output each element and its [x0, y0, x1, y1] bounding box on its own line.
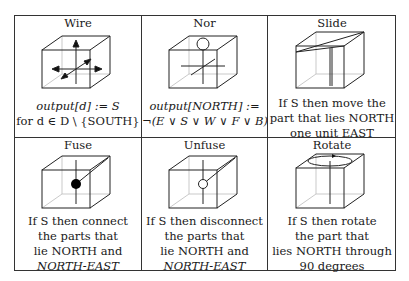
- cell-title: Nor: [142, 16, 267, 30]
- cell-wire: Wire output[d] := S for d ∈ D \ {SOUTH}: [15, 16, 141, 137]
- cube-with-filled-joint-icon: [38, 152, 118, 214]
- cube-with-slide-plane-icon: [292, 28, 372, 94]
- caption-line: ¬(E ∨ S ∨ W ∨ F ∨ B): [142, 114, 267, 129]
- caption-line: the part that: [268, 229, 396, 244]
- caption-line: lie NORTH and: [142, 244, 267, 259]
- caption-line: the parts that: [142, 229, 267, 244]
- cell-title: Wire: [15, 16, 141, 30]
- caption-line: part that lies NORTH: [268, 111, 396, 126]
- cube-with-four-arrows-icon: [38, 32, 118, 94]
- cell-slide: Slide If S then move the part that lies …: [268, 16, 396, 137]
- caption-line: for d ∈ D \ {SOUTH}: [15, 114, 141, 129]
- caption-line: If S then move the: [268, 96, 396, 111]
- caption-line: If S then disconnect: [142, 214, 267, 229]
- cube-with-nor-gate-icon: [165, 32, 245, 94]
- caption-line: output[d] := S: [15, 99, 141, 114]
- caption-line: 90 degrees: [268, 259, 396, 274]
- cube-with-rotation-ring-icon: [292, 150, 372, 214]
- cell-caption: If S then move the part that lies NORTH …: [268, 96, 396, 141]
- cube-with-open-joint-icon: [165, 152, 245, 214]
- caption-line: NORTH-EAST: [142, 259, 267, 274]
- operations-table: Wire output[d] := S for d ∈ D \ {SOUTH} …: [14, 15, 396, 271]
- cell-fuse: Fuse If S then connect the parts that li…: [15, 138, 141, 271]
- caption-line: lie NORTH and: [15, 244, 141, 259]
- cell-caption: If S then connect the parts that lie NOR…: [15, 214, 141, 274]
- cell-rotate: Rotate If S then rotate the part that li…: [268, 138, 396, 271]
- cell-title: Fuse: [15, 138, 141, 152]
- cell-title: Unfuse: [142, 138, 267, 152]
- caption-line: lies NORTH through: [268, 244, 396, 259]
- caption-line: If S then connect: [15, 214, 141, 229]
- cell-nor: Nor output[NORTH] := ¬(E ∨ S ∨ W ∨ F ∨ B…: [142, 16, 267, 137]
- caption-line: If S then rotate: [268, 214, 396, 229]
- caption-line: NORTH-EAST: [15, 259, 141, 274]
- cell-caption: output[d] := S for d ∈ D \ {SOUTH}: [15, 99, 141, 129]
- cell-caption: output[NORTH] := ¬(E ∨ S ∨ W ∨ F ∨ B): [142, 99, 267, 129]
- caption-line: the parts that: [15, 229, 141, 244]
- cell-caption: If S then disconnect the parts that lie …: [142, 214, 267, 274]
- cell-caption: If S then rotate the part that lies NORT…: [268, 214, 396, 274]
- cell-unfuse: Unfuse If S then disconnect the parts th…: [142, 138, 267, 271]
- caption-line: output[NORTH] :=: [142, 99, 267, 114]
